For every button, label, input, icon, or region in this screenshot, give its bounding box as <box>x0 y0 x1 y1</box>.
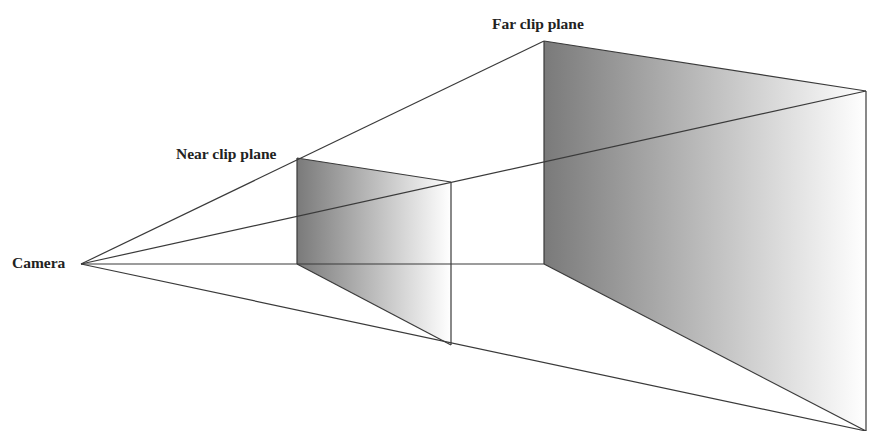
near-clip-plane-label: Near clip plane <box>176 145 276 163</box>
view-frustum-diagram <box>0 0 887 431</box>
far-clip-plane-label: Far clip plane <box>492 15 584 33</box>
far-plane-top-face <box>544 41 866 264</box>
camera-label: Camera <box>12 254 65 272</box>
